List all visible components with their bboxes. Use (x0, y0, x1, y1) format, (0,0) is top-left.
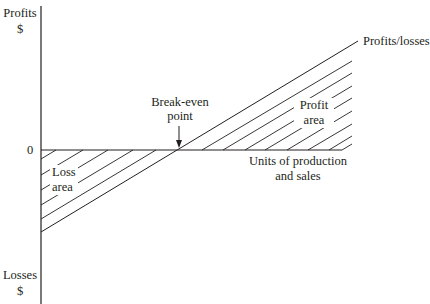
profit-area-label-line1: Profit (296, 98, 332, 113)
profit-area-label: Profit area (294, 98, 334, 128)
break-even-label-line1: Break-even (144, 95, 216, 109)
profits-losses-label: Profits/losses (363, 34, 430, 48)
x-axis-label-line1: Units of production (238, 154, 358, 169)
profit-area-label-line2: area (296, 113, 332, 128)
profits-losses-line (41, 41, 358, 232)
x-axis-label: Units of production and sales (238, 154, 358, 184)
losses-label: Losses (0, 268, 40, 282)
y-axis-top-label: Profits $ (0, 6, 40, 36)
break-even-arrow-icon (176, 126, 182, 148)
y-axis-bottom-label: Losses $ (0, 268, 40, 298)
loss-area-label-line2: area (52, 180, 76, 195)
losses-unit: $ (0, 284, 40, 298)
break-even-label: Break-even point (144, 95, 216, 123)
zero-label: 0 (27, 143, 33, 157)
profits-label: Profits (0, 6, 40, 20)
break-even-label-line2: point (144, 109, 216, 123)
x-axis-label-line2: and sales (238, 169, 358, 184)
profits-unit: $ (0, 22, 40, 36)
loss-area-label: Loss area (50, 165, 78, 195)
loss-area-label-line1: Loss (52, 165, 76, 180)
